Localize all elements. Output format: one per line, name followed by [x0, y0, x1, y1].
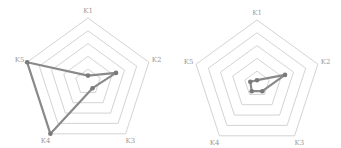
data-point — [48, 132, 53, 137]
axis-label: K3 — [125, 137, 135, 145]
axis-label: K4 — [41, 137, 51, 145]
data-point — [283, 73, 288, 78]
axis-label: K5 — [184, 58, 194, 66]
axis-label: K2 — [152, 56, 162, 64]
axis-label: K1 — [252, 9, 262, 17]
data-point — [25, 60, 30, 65]
axis-label: K5 — [15, 56, 25, 64]
axis-label: K2 — [321, 58, 331, 66]
axis-label: K3 — [294, 139, 304, 147]
data-point — [86, 73, 91, 78]
data-point — [255, 78, 260, 83]
data-point — [260, 89, 265, 94]
radar-charts: K1K2K3K4K5 K1K2K3K4K5 — [0, 0, 341, 148]
data-point — [249, 89, 254, 94]
data-point — [90, 86, 95, 91]
radar-chart-right: K1K2K3K4K5 — [184, 9, 331, 147]
radar-chart-left: K1K2K3K4K5 — [15, 7, 162, 145]
axis-label: K1 — [83, 7, 93, 15]
data-point — [114, 71, 119, 76]
series-line — [250, 75, 285, 91]
data-point — [248, 80, 253, 85]
axis-label: K4 — [210, 139, 220, 147]
